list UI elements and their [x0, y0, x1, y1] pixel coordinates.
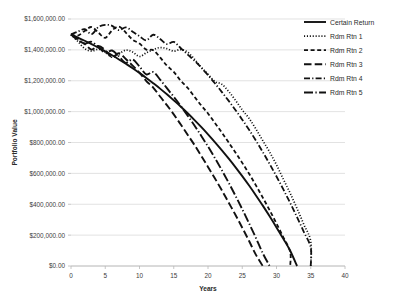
x-axis-title: Years	[199, 285, 217, 292]
chart-canvas: $0.00$200,000.00$400,000.00$600,000.00$8…	[0, 0, 393, 301]
x-axis-tick-label: 40	[341, 272, 349, 279]
portfolio-value-chart: $0.00$200,000.00$400,000.00$600,000.00$8…	[0, 0, 393, 301]
legend-label: Certain Return	[330, 19, 374, 26]
y-axis-tick-label: $0.00	[49, 262, 65, 269]
series-line	[71, 34, 297, 266]
y-axis-tick-label: $400,000.00	[29, 201, 65, 208]
y-axis-tick-label: $200,000.00	[29, 232, 65, 239]
legend-label: Rdm Rtn 5	[330, 89, 363, 96]
x-axis-tick-label: 0	[69, 272, 73, 279]
y-axis-tick-label: $1,000,000.00	[24, 108, 65, 115]
legend-label: Rdm Rtn 4	[330, 75, 363, 82]
x-axis-tick-label: 20	[204, 272, 212, 279]
x-axis-tick-label: 15	[170, 272, 178, 279]
x-axis-tick-label: 10	[136, 272, 144, 279]
series-line	[71, 34, 311, 266]
series-line	[71, 27, 291, 266]
x-axis-tick-label: 5	[103, 272, 107, 279]
y-axis-tick-label: $1,200,000.00	[24, 77, 65, 84]
legend-label: Rdm Rtn 2	[330, 47, 363, 54]
y-axis-title: Portfolio Value	[11, 119, 18, 165]
y-axis-tick-label: $600,000.00	[29, 170, 65, 177]
legend-label: Rdm Rtn 3	[330, 61, 363, 68]
x-axis-tick-label: 30	[273, 272, 281, 279]
y-axis-tick-label: $800,000.00	[29, 139, 65, 146]
x-axis-tick-label: 25	[239, 272, 247, 279]
y-axis-tick-label: $1,400,000.00	[24, 46, 65, 53]
legend-label: Rdm Rtn 1	[330, 33, 363, 40]
x-axis-tick-label: 35	[307, 272, 315, 279]
y-axis-tick-label: $1,600,000.00	[24, 15, 65, 22]
series-line	[71, 25, 311, 266]
